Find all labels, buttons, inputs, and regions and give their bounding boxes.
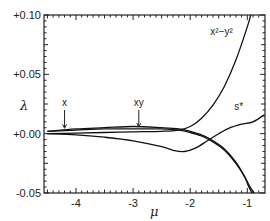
tick-labels: -4-3-2-1-0.05+0.00+0.05+0.10 (13, 9, 252, 209)
y-tick-label: +0.05 (13, 68, 41, 80)
annotation-label: xy (134, 97, 144, 108)
annotations: xxyx²−y²s* (62, 26, 243, 128)
axis-ticks (44, 15, 265, 193)
x-tick-label: -3 (128, 197, 138, 209)
line-chart: -4-3-2-1-0.05+0.00+0.05+0.10 xxyx²−y²s* … (0, 0, 270, 221)
curve-label: x²−y² (210, 26, 233, 37)
annotation-label: x (62, 97, 67, 108)
x-axis-label: μ (150, 204, 158, 219)
x-tick-label: -2 (185, 197, 195, 209)
y-tick-label: +0.10 (13, 9, 41, 21)
x-tick-label: -4 (71, 197, 81, 209)
curve-xy (47, 127, 252, 194)
x-tick-label: -1 (242, 197, 252, 209)
plot-frame (44, 15, 265, 193)
y-tick-label: +0.00 (13, 128, 41, 140)
y-tick-label: -0.05 (16, 187, 41, 199)
y-axis-label: λ (19, 98, 28, 113)
curve-x (47, 129, 254, 193)
curves (47, 15, 264, 193)
curve-label: s* (234, 101, 243, 112)
